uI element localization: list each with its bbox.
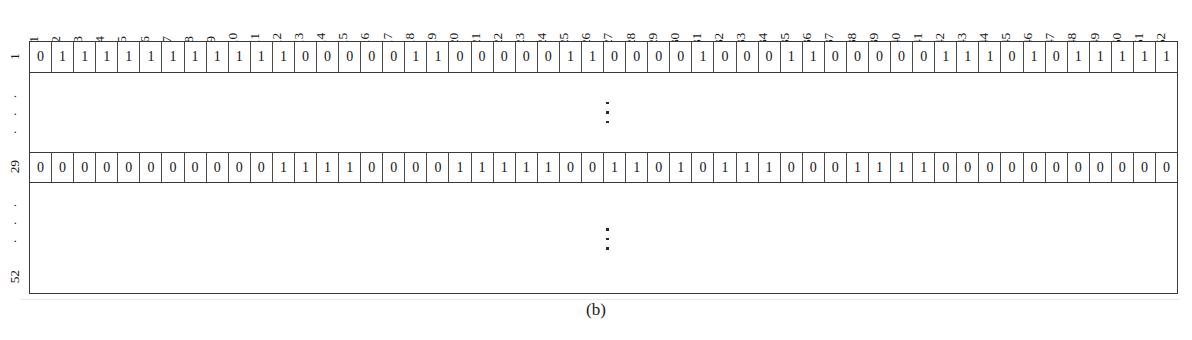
matrix-cell: 0: [582, 153, 604, 182]
matrix-cell: 0: [670, 42, 692, 72]
matrix-cell: 0: [74, 153, 96, 182]
matrix-cell: 1: [207, 42, 229, 72]
matrix-cell: 0: [361, 153, 383, 182]
matrix-cell: 0: [1134, 153, 1156, 182]
matrix-cell: 0: [913, 42, 935, 72]
matrix-cell: 1: [449, 153, 471, 182]
matrix-cell: 0: [1090, 153, 1112, 182]
matrix-cell: 0: [494, 42, 516, 72]
matrix-cell: 1: [692, 42, 714, 72]
matrix-cell: 0: [847, 42, 869, 72]
matrix-cell: 1: [317, 153, 339, 182]
matrix-cell: 1: [1156, 42, 1177, 72]
row-label-ellipsis: · · ·: [0, 182, 29, 260]
matrix-cell: 0: [383, 153, 405, 182]
row-ellipsis: [30, 73, 1177, 152]
matrix-cell: 0: [825, 153, 847, 182]
matrix-cell: 0: [692, 153, 714, 182]
matrix-cell: 1: [118, 42, 140, 72]
dot: [606, 121, 609, 124]
matrix-cell: 1: [979, 42, 1001, 72]
matrix-cell: 0: [759, 42, 781, 72]
matrix-cell: 0: [1046, 153, 1068, 182]
matrix-cell: 1: [935, 42, 957, 72]
row-ellipsis: [30, 183, 1177, 295]
matrix-cell: 1: [759, 153, 781, 182]
matrix-cell: 1: [229, 42, 251, 72]
row-label-1: 1: [0, 41, 29, 72]
matrix-cell: 1: [427, 42, 449, 72]
matrix-cell: 0: [538, 42, 560, 72]
matrix-cell: 0: [1001, 42, 1023, 72]
matrix-cell: 0: [604, 42, 626, 72]
matrix-cell: 0: [516, 42, 538, 72]
matrix-cell: 0: [229, 153, 251, 182]
vertical-dots-icon: [606, 228, 609, 250]
matrix-cell: 0: [935, 153, 957, 182]
matrix-cell: 1: [560, 42, 582, 72]
matrix-cell: 0: [118, 153, 140, 182]
matrix-cell: 0: [957, 153, 979, 182]
matrix-cell: 0: [1024, 153, 1046, 182]
matrix-cell: 1: [516, 153, 538, 182]
matrix-cell: 1: [74, 42, 96, 72]
matrix-row-29: 0000000000011110000111110011010111000111…: [30, 152, 1177, 183]
matrix-row-1: 0111111111110000011000001100001000110000…: [30, 42, 1177, 73]
matrix-cell: 1: [96, 42, 118, 72]
matrix-cell: 1: [1134, 42, 1156, 72]
matrix-cell: 0: [361, 42, 383, 72]
matrix-cell: 0: [207, 153, 229, 182]
matrix-cell: 0: [781, 153, 803, 182]
matrix-cell: 0: [449, 42, 471, 72]
matrix-cell: 0: [1156, 153, 1177, 182]
matrix-cell: 1: [1024, 42, 1046, 72]
matrix-cell: 0: [317, 42, 339, 72]
matrix-cell: 0: [162, 153, 184, 182]
matrix-cell: 0: [1001, 153, 1023, 182]
matrix-cell: 1: [1112, 42, 1134, 72]
matrix-cell: 0: [30, 42, 52, 72]
matrix-cell: 1: [913, 153, 935, 182]
dot: [606, 102, 609, 105]
row-label-text: 29: [8, 160, 22, 173]
matrix-cell: 1: [891, 153, 913, 182]
row-label-29: 29: [0, 151, 29, 182]
matrix-cell: 1: [273, 42, 295, 72]
figure-caption: (b): [0, 300, 1192, 320]
matrix-cell: 1: [869, 153, 891, 182]
matrix-cell: 0: [295, 42, 317, 72]
matrix-cell: 0: [560, 153, 582, 182]
matrix-cell: 1: [472, 153, 494, 182]
matrix-cell: 1: [781, 42, 803, 72]
row-label-ellipsis-text: · · ·: [8, 198, 22, 243]
row-label-text: 1: [8, 53, 22, 60]
matrix-cell: 1: [604, 153, 626, 182]
dot: [606, 247, 609, 250]
matrix-cell: 0: [52, 153, 74, 182]
matrix-cell: 1: [847, 153, 869, 182]
matrix-cell: 1: [295, 153, 317, 182]
matrix-cell: 0: [185, 153, 207, 182]
dot: [606, 111, 609, 114]
matrix-cell: 1: [538, 153, 560, 182]
row-label-column: 1· · ·29· · ·52: [0, 41, 29, 294]
matrix-cell: 0: [1046, 42, 1068, 72]
matrix-cell: 0: [1068, 153, 1090, 182]
matrix-cell: 0: [339, 42, 361, 72]
matrix-cell: 0: [626, 42, 648, 72]
row-label-52: 52: [0, 260, 29, 294]
matrix-cell: 0: [472, 42, 494, 72]
matrix-cell: 1: [494, 153, 516, 182]
matrix-cell: 0: [405, 153, 427, 182]
matrix-cell: 1: [670, 153, 692, 182]
matrix-cell: 0: [648, 42, 670, 72]
column-header-52: 52: [1156, 0, 1178, 41]
matrix-cell: 0: [714, 42, 736, 72]
matrix-cell: 1: [714, 153, 736, 182]
vertical-dots-icon: [606, 102, 609, 124]
row-label-text: 52: [8, 270, 22, 283]
matrix-cell: 1: [273, 153, 295, 182]
matrix-cell: 1: [140, 42, 162, 72]
matrix-cell: 0: [737, 42, 759, 72]
column-header-strip: 1234567891011121314151617181920212223242…: [29, 0, 1178, 41]
